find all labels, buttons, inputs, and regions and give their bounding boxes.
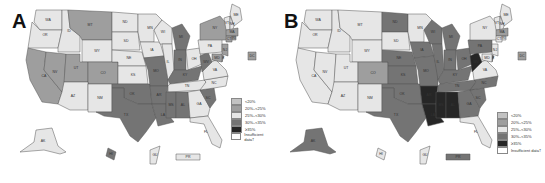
state-label: AK [311, 139, 316, 143]
legend-b: <20%20%–<25%25%–<30%30%–<35%≥35%Insuffic… [497, 112, 541, 154]
legend-swatch [231, 98, 242, 105]
state-label: FL [204, 130, 208, 134]
state-label: PR [456, 155, 461, 159]
legend-swatch [497, 133, 508, 140]
state-label: AR [157, 93, 162, 97]
legend-label: <20% [245, 99, 255, 104]
state-label: TN [185, 84, 190, 88]
state-label: WY [364, 49, 370, 53]
state-label: DC [249, 54, 255, 58]
state-label: RI [232, 36, 236, 40]
state-label: PA [208, 44, 213, 48]
state-label: KY [453, 73, 458, 77]
legend-item: 30%–<35% [497, 133, 541, 140]
state-label: PA [478, 44, 483, 48]
state-label: TX [124, 113, 129, 117]
state-label: MD [484, 56, 490, 60]
state-label: HI [109, 152, 113, 156]
state-label: NJ [493, 48, 498, 52]
legend-item: <20% [231, 98, 272, 105]
state-label: WV [473, 60, 479, 64]
state-label: OK [129, 92, 135, 96]
state-label: FL [474, 130, 478, 134]
legend-a: <20%20%–<25%25%–<30%30%–<35%≥35%Insuffic… [231, 98, 272, 140]
state-label: OR [42, 33, 48, 37]
legend-swatch [231, 126, 242, 133]
state-label: SD [124, 39, 129, 43]
panel-label-a: A [12, 10, 26, 33]
state-label: SC [476, 96, 481, 100]
state-label: WI [431, 30, 435, 34]
legend-label: 30%–<35% [245, 120, 266, 125]
state-label: IL [167, 60, 170, 64]
state-label: VA [483, 68, 488, 72]
state-label: WI [161, 30, 165, 34]
state-label: RI [502, 36, 506, 40]
legend-item: 20%–<25% [497, 119, 541, 126]
state-label: OH [461, 57, 467, 61]
state-label: ME [233, 13, 239, 17]
state-label: NJ [223, 48, 228, 52]
legend-swatch [497, 140, 508, 147]
state-label: WY [94, 49, 100, 53]
state-label: IL [437, 60, 440, 64]
legend-swatch [231, 105, 242, 112]
state-label: ND [122, 20, 128, 24]
state-label: ME [503, 13, 509, 17]
legend-label: 25%–<30% [245, 113, 266, 118]
state-label: ID [67, 29, 71, 33]
state-label: IN [448, 58, 452, 62]
state-label: VA [213, 68, 218, 72]
state-label: SC [206, 96, 211, 100]
state-label: DC [519, 54, 525, 58]
state-label: MD [214, 56, 220, 60]
state-label: PR [186, 155, 191, 159]
legend-swatch [231, 133, 241, 140]
state-label: MS [168, 103, 174, 107]
state-label: GA [466, 102, 472, 106]
legend-item: 30%–<35% [231, 119, 272, 126]
legend-swatch [497, 126, 508, 133]
state-label: MI [449, 35, 453, 39]
state-label: CA [312, 74, 318, 78]
legend-item: Insufficient data† [497, 147, 541, 154]
state-label: TX [394, 113, 399, 117]
state-label: ND [392, 20, 398, 24]
state-label: AR [427, 93, 432, 97]
state-label: MO [423, 69, 429, 73]
legend-label: 25%–<30% [511, 127, 532, 132]
state-label: MN [147, 26, 153, 30]
state-label: OR [312, 33, 318, 37]
state-label: NH [229, 22, 235, 26]
legend-label: Insufficient data† [244, 132, 272, 142]
state-label: GU [152, 153, 158, 157]
state-label: WA [45, 18, 51, 22]
state-label: HI [379, 152, 383, 156]
state-label: AK [41, 139, 46, 143]
state-label: OH [191, 57, 197, 61]
state-label: NE [397, 56, 403, 60]
legend-item: Insufficient data† [231, 133, 272, 140]
legend-label: 30%–<35% [511, 134, 532, 139]
state-label: GU [422, 153, 428, 157]
state-label: AL [181, 103, 185, 107]
state-label: MA [499, 30, 505, 34]
state-label: CA [42, 74, 48, 78]
state-label: NE [127, 56, 133, 60]
state-label: WA [315, 18, 321, 22]
legend-label: Insufficient data† [511, 148, 541, 153]
legend-label: 20%–<25% [511, 120, 532, 125]
state-label: MT [87, 23, 93, 27]
state-label: KY [183, 73, 188, 77]
state-label: MS [438, 103, 444, 107]
state-label: MO [153, 69, 159, 73]
state-label: CO [100, 71, 106, 75]
state-label: NM [367, 96, 373, 100]
legend-swatch [231, 119, 242, 126]
state-label: GA [196, 102, 202, 106]
legend-item: ≥35% [497, 140, 541, 147]
state-label: NC [211, 81, 217, 85]
state-label: KS [401, 73, 406, 77]
state-label: LA [161, 113, 166, 117]
state-label: NV [53, 70, 59, 74]
